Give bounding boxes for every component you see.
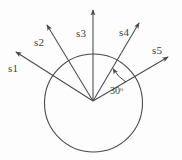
vector-label-s5: s5 <box>152 44 163 56</box>
vector-label-s4: s4 <box>119 26 130 38</box>
vector-arrow-group <box>16 10 168 101</box>
degree-symbol-icon: o <box>120 85 123 92</box>
angle-value: 30 <box>110 85 120 96</box>
vector-label-s3: s3 <box>76 27 87 39</box>
vector-arrow-s5 <box>93 57 168 101</box>
vector-label-s2: s2 <box>34 36 44 48</box>
angle-arc-icon <box>113 69 126 82</box>
angle-label: 30o <box>110 85 123 97</box>
vector-diagram-figure: s1 s2 s3 s4 s5 30o <box>0 0 182 160</box>
vector-arrow-s1 <box>16 52 93 101</box>
vector-diagram-canvas: s1 s2 s3 s4 s5 30o <box>0 0 182 160</box>
vector-label-s1: s1 <box>8 62 18 74</box>
